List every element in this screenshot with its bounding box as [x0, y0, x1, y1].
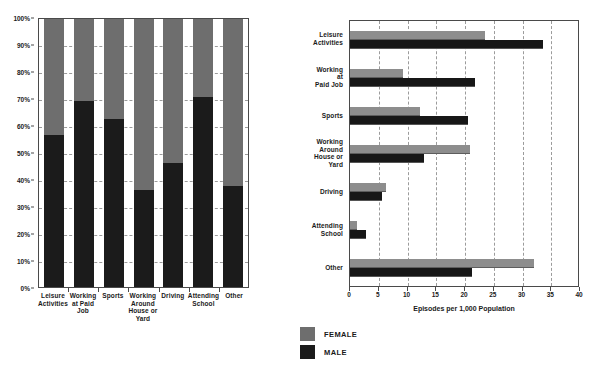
left-stacked-bar	[193, 19, 213, 287]
right-x-tick-label: 10	[403, 291, 410, 298]
left-segment-male	[163, 163, 183, 287]
left-y-axis: 0%10%20%30%40%50%60%70%80%90%100%	[0, 18, 34, 288]
right-plot-area	[349, 20, 579, 287]
left-y-tick-label: 70%	[17, 96, 30, 103]
legend-swatch-male-icon	[300, 345, 315, 359]
left-y-tick-label: 50%	[17, 150, 30, 157]
left-stacked-bar	[74, 19, 94, 287]
left-stacked-bar	[44, 19, 64, 287]
left-y-tick-label: 80%	[17, 69, 30, 76]
right-category-label-0: LeisureActivities	[300, 20, 346, 58]
left-y-tick-label: 90%	[17, 42, 30, 49]
right-bar-wrap	[350, 259, 578, 267]
left-segment-male	[223, 186, 243, 287]
left-x-axis-labels: LeisureActivitiesWorkingat PaidJobSports…	[38, 292, 249, 322]
left-x-label-1: Workingat PaidJob	[68, 292, 98, 322]
right-category-label-1: WorkingatPaid Job	[300, 58, 346, 96]
left-column-4	[158, 19, 188, 287]
right-category-label-5: AttendingSchool	[300, 211, 346, 249]
left-segment-female	[74, 19, 94, 101]
right-bar-wrap	[350, 116, 578, 124]
right-x-tick-label: 20	[460, 291, 467, 298]
left-stacked-bar	[223, 19, 243, 287]
left-y-tick-label: 100%	[13, 15, 30, 22]
left-y-tick-mark	[31, 261, 34, 262]
left-column-6	[218, 19, 248, 287]
right-bar-wrap	[350, 107, 578, 115]
left-y-tick-mark	[31, 153, 34, 154]
right-category-label-6: Other	[300, 249, 346, 287]
right-x-tick-labels: 0510152025303540	[349, 291, 579, 301]
left-stacked-bar	[134, 19, 154, 287]
left-x-label-0: LeisureActivities	[38, 292, 68, 322]
right-bar-male	[350, 40, 543, 49]
right-group-1	[350, 59, 578, 97]
left-y-tick-label: 40%	[17, 177, 30, 184]
left-y-tick-label: 30%	[17, 204, 30, 211]
legend-item-female: FEMALE	[300, 325, 460, 343]
left-y-tick-mark	[31, 180, 34, 181]
legend-label-male: MALE	[324, 348, 347, 357]
right-category-label-2: Sports	[300, 96, 346, 134]
right-category-label-3: WorkingAroundHouse orYard	[300, 134, 346, 172]
left-y-tick-label: 20%	[17, 231, 30, 238]
left-column-3	[129, 19, 159, 287]
left-segment-female	[193, 19, 213, 97]
left-column-0	[39, 19, 69, 287]
left-segment-male	[134, 190, 154, 287]
right-group-4	[350, 172, 578, 210]
left-y-tick-label: 60%	[17, 123, 30, 130]
right-bar-male	[350, 192, 382, 201]
right-bar-female	[350, 221, 357, 230]
right-bar-wrap	[350, 69, 578, 77]
right-grouped-bar-chart: LeisureActivitiesWorkingatPaid JobSports…	[300, 0, 606, 330]
right-group-5	[350, 210, 578, 248]
left-stacked-bar	[104, 19, 124, 287]
left-stacked-percent-chart: 0%10%20%30%40%50%60%70%80%90%100% Leisur…	[0, 0, 300, 330]
left-column-5	[188, 19, 218, 287]
right-x-tick-label: 30	[518, 291, 525, 298]
chart-legend: FEMALE MALE	[300, 325, 460, 361]
left-x-label-6: Other	[219, 292, 249, 322]
left-x-label-5: AttendingSchool	[188, 292, 219, 322]
left-segment-male	[104, 119, 124, 287]
left-y-tick-mark	[31, 72, 34, 73]
right-x-tick-label: 15	[432, 291, 439, 298]
legend-label-female: FEMALE	[324, 330, 357, 339]
right-bar-wrap	[350, 31, 578, 39]
left-y-tick-label: 10%	[17, 258, 30, 265]
right-bar-wrap	[350, 154, 578, 162]
right-bar-wrap	[350, 268, 578, 276]
right-bar-male	[350, 116, 468, 125]
right-bar-male	[350, 154, 424, 163]
left-segment-male	[193, 97, 213, 287]
left-segment-female	[163, 19, 183, 163]
right-category-labels: LeisureActivitiesWorkingatPaid JobSports…	[300, 20, 346, 287]
right-x-tick-label: 5	[376, 291, 380, 298]
right-bar-groups	[350, 21, 578, 286]
right-x-tick-label: 0	[347, 291, 351, 298]
right-bar-male	[350, 78, 475, 87]
left-x-label-4: Driving	[158, 292, 188, 322]
right-group-2	[350, 97, 578, 135]
left-y-tick-mark	[31, 126, 34, 127]
right-group-6	[350, 248, 578, 286]
right-x-tick-label: 40	[575, 291, 582, 298]
legend-item-male: MALE	[300, 343, 460, 361]
left-column-2	[99, 19, 129, 287]
left-x-label-3: WorkingAroundHouse orYard	[128, 292, 158, 322]
chart-page: 0%10%20%30%40%50%60%70%80%90%100% Leisur…	[0, 0, 606, 371]
right-bar-wrap	[350, 221, 578, 229]
right-bar-wrap	[350, 145, 578, 153]
right-bar-male	[350, 230, 366, 239]
left-y-tick-mark	[31, 45, 34, 46]
right-bar-wrap	[350, 192, 578, 200]
right-group-3	[350, 135, 578, 173]
right-category-label-4: Driving	[300, 173, 346, 211]
right-bar-male	[350, 268, 472, 277]
left-segment-male	[44, 135, 64, 287]
left-y-tick-label: 0%	[21, 285, 30, 292]
right-bar-female	[350, 31, 485, 40]
right-bar-female	[350, 259, 534, 268]
left-y-tick-mark	[31, 234, 34, 235]
